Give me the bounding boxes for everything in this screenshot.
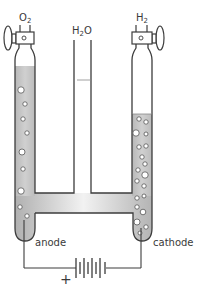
water-label-base: H: [72, 25, 80, 36]
hydrogen-label: H2: [136, 13, 148, 25]
oxygen-label-base: O: [19, 12, 27, 23]
battery-icon: [76, 258, 105, 278]
anode-label: anode: [35, 238, 66, 248]
hydrogen-label-sub: 2: [144, 17, 148, 25]
water-label: H2O: [72, 26, 92, 38]
oxygen-label-sub: 2: [27, 17, 31, 25]
hydrogen-label-base: H: [136, 12, 144, 23]
positive-terminal-label: +: [60, 272, 72, 286]
cathode-label: cathode: [153, 238, 194, 248]
water-label-tail: O: [84, 25, 92, 36]
electrolysis-apparatus-diagram: [0, 0, 200, 299]
oxygen-label: O2: [19, 13, 31, 25]
